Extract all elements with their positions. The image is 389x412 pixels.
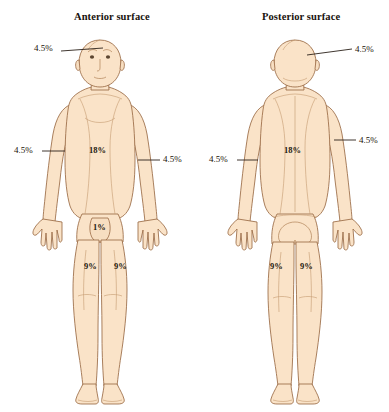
body-figures-artwork xyxy=(0,0,389,412)
posterior-body-figure xyxy=(228,40,362,404)
label-posterior-left-leg: 9% xyxy=(300,261,313,271)
label-anterior-genitalia: 1% xyxy=(93,222,106,232)
label-anterior-torso: 18% xyxy=(89,145,106,155)
rule-of-nines-diagram: Anterior surface Posterior surface xyxy=(0,0,389,412)
label-anterior-right-leg: 9% xyxy=(84,261,97,271)
label-posterior-right-leg: 9% xyxy=(270,261,283,271)
label-anterior-right-arm: 4.5% xyxy=(14,145,33,155)
label-anterior-left-arm: 4.5% xyxy=(163,154,182,164)
label-anterior-left-leg: 9% xyxy=(114,261,127,271)
label-posterior-left-arm: 4.5% xyxy=(209,154,228,164)
label-posterior-head: 4.5% xyxy=(355,44,374,54)
label-posterior-torso: 18% xyxy=(284,145,301,155)
label-anterior-head: 4.5% xyxy=(34,43,53,53)
label-posterior-right-arm: 4.5% xyxy=(359,135,378,145)
